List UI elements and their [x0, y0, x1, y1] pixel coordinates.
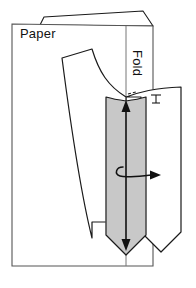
fold-label: Fold: [130, 50, 145, 76]
paper-label: Paper: [20, 26, 56, 41]
fold-flap-shape: [40, 11, 153, 26]
pattern-fold-diagram: Paper Fold: [0, 0, 196, 288]
figure-container: Paper Fold: [0, 0, 196, 288]
